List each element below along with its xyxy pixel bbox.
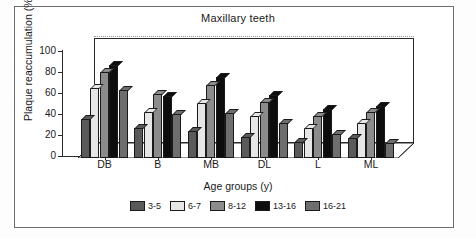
legend-swatch [210, 201, 225, 211]
bar-group [188, 53, 241, 158]
bar-group [348, 53, 401, 158]
bar-top-face [279, 119, 293, 124]
bar-top-face [163, 92, 177, 97]
bar [225, 113, 234, 158]
bar [172, 114, 181, 158]
bar-top-face [385, 139, 399, 144]
legend-swatch [170, 201, 185, 211]
y-tick-label: 100 [22, 45, 56, 56]
bar [304, 128, 313, 158]
y-tick-mark [58, 114, 62, 115]
chart-legend: 3-56-78-1213-1616-21 [0, 201, 476, 211]
legend-swatch [130, 201, 145, 211]
bar [313, 116, 322, 158]
y-tick-mark [58, 156, 62, 157]
legend-item[interactable]: 3-5 [130, 201, 161, 211]
y-tick-label: 40 [22, 108, 56, 119]
legend-item[interactable]: 8-12 [210, 201, 246, 211]
bar [323, 109, 332, 158]
legend-item[interactable]: 13-16 [255, 201, 296, 211]
y-axis-line [62, 50, 63, 156]
bar-top-face [109, 61, 123, 66]
bar [260, 102, 269, 158]
bar-top-face [216, 73, 230, 78]
bar [206, 85, 215, 159]
bar-top-face [225, 109, 239, 114]
bar [144, 112, 153, 158]
bar-top-face [269, 91, 283, 96]
bar-groups [78, 53, 398, 158]
bar-top-face [119, 86, 133, 91]
chart-title: Maxillary teeth [0, 12, 476, 24]
bar [119, 90, 128, 158]
bar-top-face [323, 105, 337, 110]
bar [294, 142, 303, 158]
y-tick-label: 60 [22, 87, 56, 98]
bar [90, 88, 99, 158]
bar [357, 123, 366, 158]
bar [250, 116, 259, 158]
bar-group [81, 53, 134, 158]
bar [134, 128, 143, 158]
bar [216, 77, 225, 158]
legend-label: 6-7 [188, 201, 201, 211]
x-axis-label: Age groups (y) [0, 180, 476, 192]
y-tick-label: 80 [22, 66, 56, 77]
legend-item[interactable]: 6-7 [170, 201, 201, 211]
bar-group [134, 53, 187, 158]
legend-swatch [305, 201, 320, 211]
bar [188, 131, 197, 158]
bar [376, 106, 385, 159]
legend-label: 16-21 [323, 201, 346, 211]
bar [385, 143, 394, 158]
bar [241, 137, 250, 158]
legend-item[interactable]: 16-21 [305, 201, 346, 211]
plot-area [78, 38, 414, 158]
legend-label: 8-12 [228, 201, 246, 211]
y-tick-mark [58, 93, 62, 94]
bar [269, 95, 278, 158]
y-tick-mark [58, 72, 62, 73]
bar [197, 103, 206, 158]
bar-group [294, 53, 347, 158]
y-tick-label: 20 [22, 129, 56, 140]
bar [279, 123, 288, 158]
bar [163, 96, 172, 158]
bar-group [241, 53, 294, 158]
bar [153, 94, 162, 158]
grid-line [94, 36, 414, 37]
legend-swatch [255, 201, 270, 211]
bar [109, 65, 118, 158]
bar-top-face [172, 110, 186, 115]
y-tick-label: 0 [22, 150, 56, 161]
bar-top-face [332, 130, 346, 135]
legend-label: 13-16 [273, 201, 296, 211]
legend-label: 3-5 [148, 201, 161, 211]
bar [332, 134, 341, 158]
bar-top-face [376, 102, 390, 107]
bar [81, 119, 90, 158]
bar [348, 138, 357, 158]
y-tick-mark [58, 135, 62, 136]
y-tick-mark [58, 51, 62, 52]
figure: Maxillary teeth Plaque reaccumulation (%… [0, 0, 476, 238]
